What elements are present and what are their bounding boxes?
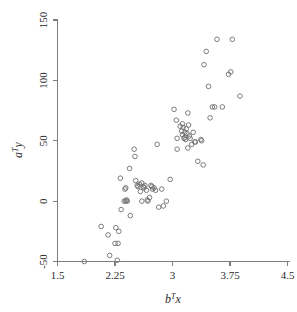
x-tick-label: 4.5 [281,269,295,281]
plot-background [57,20,287,261]
scatter-plot-figure: -50050100150 1.52.2533.754.5 aTy bTx [0,0,297,312]
x-axis-title-text: bTx [165,292,181,306]
x-tick-label: 3 [170,269,176,281]
plot-area [57,20,287,261]
y-tick-label: 0 [37,198,49,204]
x-axis-title: bTx [165,292,181,306]
x-tick-label: 1.5 [51,269,65,281]
y-tick-label: 100 [37,72,49,89]
x-axis-title-variable: x [175,292,182,306]
y-axis-title-text: aTy [11,141,25,157]
y-tick-label: 50 [37,135,49,147]
y-tick-label: 150 [37,11,49,28]
y-axis-ticks: -50050100150 [37,11,58,269]
y-axis-title: aTy [11,141,25,157]
plot-canvas: -50050100150 1.52.2533.754.5 aTy bTx [0,0,297,312]
y-tick-label: -50 [37,254,49,269]
x-axis-ticks: 1.52.2533.754.5 [51,262,295,282]
x-tick-label: 3.75 [220,269,240,281]
y-axis-title-variable: y [11,141,25,148]
x-tick-label: 2.25 [105,269,125,281]
